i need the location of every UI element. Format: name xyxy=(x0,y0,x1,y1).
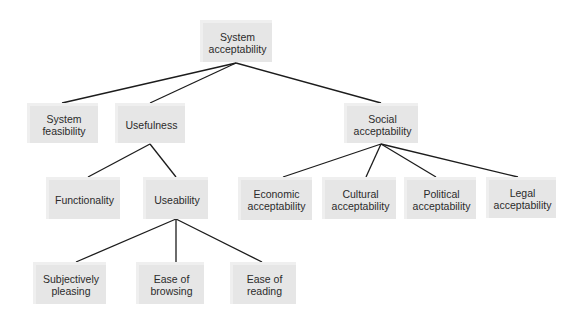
edge-usefulness-to-functionality xyxy=(88,144,150,177)
edge-root-to-usefulness xyxy=(150,63,236,103)
node-label: Useability xyxy=(154,194,200,206)
node-economic-acceptability: Economic acceptability xyxy=(238,177,312,220)
node-label: System feasibility xyxy=(42,113,85,137)
node-ease-of-reading: Ease of reading xyxy=(230,262,296,304)
node-label: System acceptability xyxy=(209,31,267,55)
node-label: Cultural acceptability xyxy=(332,188,390,212)
node-useability: Useability xyxy=(143,177,208,219)
node-usefulness: Usefulness xyxy=(115,103,185,143)
node-label: Ease of reading xyxy=(247,273,283,297)
node-label: Functionality xyxy=(55,194,114,206)
node-political-acceptability: Political acceptability xyxy=(404,177,476,219)
edge-social-to-economic xyxy=(283,144,381,177)
node-ease-of-browsing: Ease of browsing xyxy=(136,262,204,304)
edge-root-to-social-acceptability xyxy=(236,63,381,103)
node-social-acceptability: Social acceptability xyxy=(344,103,418,143)
node-label: Economic acceptability xyxy=(248,188,306,212)
edge-root-to-system-feasibility xyxy=(62,63,236,103)
edge-useability-to-subjectively-pleasing xyxy=(76,219,176,262)
node-label: Political acceptability xyxy=(413,188,471,212)
node-label: Ease of browsing xyxy=(150,273,192,297)
node-label: Legal acceptability xyxy=(494,187,552,211)
node-legal-acceptability: Legal acceptability xyxy=(486,177,556,218)
node-system-feasibility: System feasibility xyxy=(27,103,98,143)
node-subjectively-pleasing: Subjectively pleasing xyxy=(33,262,106,304)
acceptability-tree-diagram: System acceptability System feasibility … xyxy=(0,0,585,319)
edge-usefulness-to-useability xyxy=(150,144,176,177)
node-functionality: Functionality xyxy=(46,177,120,219)
edge-social-to-legal xyxy=(381,144,518,177)
node-label: Subjectively pleasing xyxy=(43,273,99,297)
edge-social-to-political xyxy=(381,144,436,177)
node-system-acceptability: System acceptability xyxy=(200,20,272,62)
node-label: Social acceptability xyxy=(354,113,412,137)
node-label: Usefulness xyxy=(126,119,178,131)
edge-useability-to-ease-of-reading xyxy=(176,219,262,262)
node-cultural-acceptability: Cultural acceptability xyxy=(322,177,396,219)
